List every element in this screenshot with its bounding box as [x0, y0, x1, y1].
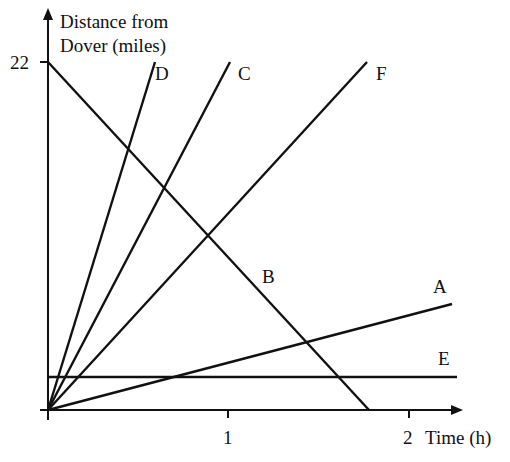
- label-D: D: [155, 63, 169, 84]
- x-tick-label-2: 2: [403, 427, 413, 448]
- y-tick-label: 22: [10, 52, 29, 73]
- line-A: [48, 304, 452, 410]
- x-axis-arrow-icon: [451, 405, 463, 415]
- label-A: A: [433, 276, 447, 297]
- series-lines: [48, 62, 457, 410]
- label-B: B: [262, 266, 275, 287]
- label-E: E: [438, 348, 450, 369]
- y-axis-title-line1: Distance from: [60, 11, 168, 32]
- y-axis-arrow-icon: [43, 8, 53, 20]
- y-axis-title-line2: Dover (miles): [60, 35, 166, 57]
- label-C: C: [238, 63, 251, 84]
- label-F: F: [376, 63, 387, 84]
- axes: [40, 8, 463, 420]
- x-tick-label-1: 1: [223, 427, 233, 448]
- distance-time-chart: 22 1 2 Distance from Dover (miles) Time …: [0, 0, 510, 462]
- x-axis-title: Time (h): [425, 427, 491, 449]
